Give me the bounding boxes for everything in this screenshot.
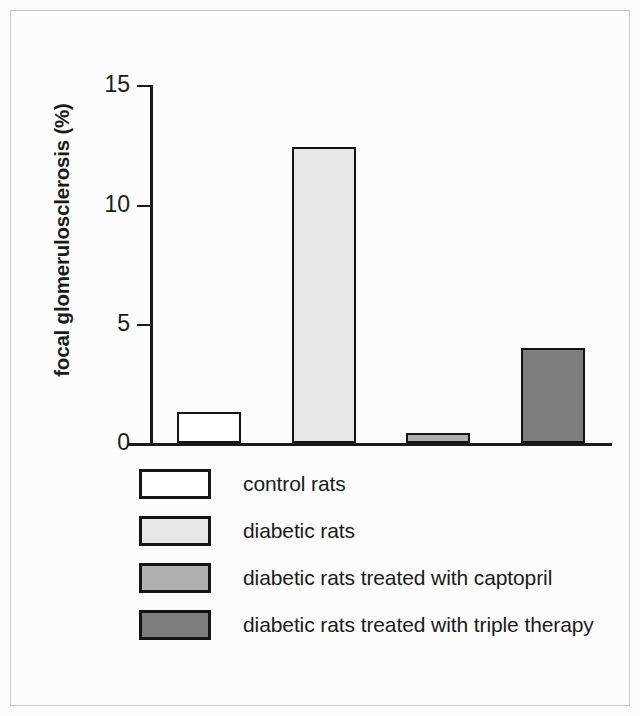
legend-swatch-diabetic-rats <box>139 516 211 546</box>
bar-diabetic-rats-captopril <box>406 433 470 443</box>
legend-label-diabetic-rats-triple-therapy: diabetic rats treated with triple therap… <box>243 613 594 637</box>
legend-item-control-rats: control rats <box>139 464 609 503</box>
y-tick-label-15-wrap: 15 <box>80 73 130 97</box>
y-tick-10 <box>137 205 151 207</box>
legend-label-diabetic-rats-captopril: diabetic rats treated with captopril <box>243 566 552 590</box>
y-tick-label-0: 0 <box>84 431 130 454</box>
y-axis-title: focal glomerulosclerosis (%) <box>50 90 74 390</box>
y-tick-label-10-wrap: 10 <box>80 193 130 217</box>
legend-label-diabetic-rats: diabetic rats <box>243 519 355 543</box>
y-tick-label-5-wrap: 5 <box>80 312 130 336</box>
figure-container: focal glomerulosclerosis (%) 15 10 5 0 c… <box>0 0 640 716</box>
legend-swatch-diabetic-rats-triple-therapy <box>139 610 211 640</box>
y-tick-15 <box>137 85 151 87</box>
y-axis-line <box>150 85 153 444</box>
legend-swatch-diabetic-rats-captopril <box>139 563 211 593</box>
y-tick-label-5: 5 <box>84 312 130 335</box>
chart-legend: control rats diabetic rats diabetic rats… <box>139 464 609 652</box>
legend-item-diabetic-rats-triple-therapy: diabetic rats treated with triple therap… <box>139 605 609 644</box>
legend-swatch-control-rats <box>139 469 211 499</box>
y-tick-label-15: 15 <box>84 73 130 96</box>
y-tick-5 <box>137 324 151 326</box>
legend-item-diabetic-rats-captopril: diabetic rats treated with captopril <box>139 558 609 597</box>
y-tick-label-0-wrap: 0 <box>80 431 130 455</box>
x-axis-baseline <box>128 443 612 446</box>
legend-item-diabetic-rats: diabetic rats <box>139 511 609 550</box>
y-tick-label-10: 10 <box>84 193 130 216</box>
bar-diabetic-rats-triple-therapy <box>521 348 585 443</box>
bar-diabetic-rats <box>292 147 356 443</box>
y-tick-0 <box>137 443 151 445</box>
bar-control-rats <box>177 412 241 443</box>
legend-label-control-rats: control rats <box>243 472 346 496</box>
